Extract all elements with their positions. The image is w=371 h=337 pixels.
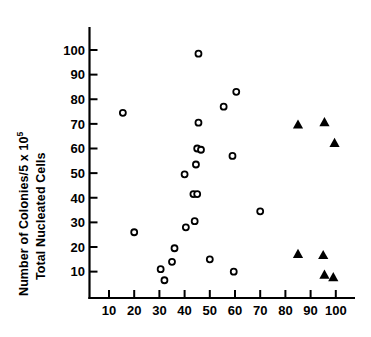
- x-tick-label-100: 100: [325, 303, 347, 318]
- x-axis-ticks: [109, 290, 336, 298]
- y-tick-label-70: 70: [71, 117, 85, 132]
- data-point-filled-triangle: [319, 270, 329, 279]
- y-tick-label-40: 40: [71, 191, 85, 206]
- data-point-open-circle: [193, 162, 199, 168]
- axis-lines: [88, 27, 355, 299]
- y-tick-label-80: 80: [71, 92, 85, 107]
- y-tick-label-60: 60: [71, 141, 85, 156]
- data-point-open-circle: [192, 218, 198, 224]
- y-tick-label-20: 20: [71, 240, 85, 255]
- data-point-open-circle: [169, 259, 175, 265]
- data-point-open-circle: [231, 269, 237, 275]
- data-point-open-circle: [131, 229, 137, 235]
- data-point-open-circle: [207, 256, 213, 262]
- filled-triangle-markers: [293, 117, 340, 281]
- data-point-open-circle: [172, 245, 178, 251]
- data-point-filled-triangle: [318, 250, 328, 259]
- y-tick-label-100: 100: [63, 43, 85, 58]
- x-tick-label-60: 60: [228, 303, 242, 318]
- data-point-filled-triangle: [293, 249, 303, 258]
- data-point-open-circle: [233, 89, 239, 95]
- data-point-filled-triangle: [319, 117, 329, 126]
- data-point-open-circle: [161, 277, 167, 283]
- scatter-plot-figure: Number of Colonies/5 x 105 Total Nucleat…: [0, 0, 371, 337]
- x-tick-label-90: 90: [303, 303, 317, 318]
- x-tick-label-40: 40: [177, 303, 191, 318]
- x-tick-label-10: 10: [102, 303, 116, 318]
- x-tick-label-50: 50: [203, 303, 217, 318]
- y-axis-tick-labels: 102030405060708090100: [63, 43, 85, 280]
- data-point-filled-triangle: [328, 272, 338, 281]
- plot-area: 102030405060708090100 102030405060708090…: [0, 0, 371, 337]
- data-point-open-circle: [194, 191, 200, 197]
- data-point-open-circle: [229, 153, 235, 159]
- y-tick-label-30: 30: [71, 215, 85, 230]
- y-axis-ticks: [90, 50, 98, 272]
- data-point-open-circle: [183, 224, 189, 230]
- x-tick-label-30: 30: [152, 303, 166, 318]
- data-point-open-circle: [221, 104, 227, 110]
- data-point-open-circle: [195, 120, 201, 126]
- x-tick-label-80: 80: [278, 303, 292, 318]
- x-tick-label-70: 70: [253, 303, 267, 318]
- data-point-open-circle: [195, 51, 201, 57]
- data-point-open-circle: [120, 110, 126, 116]
- x-tick-label-20: 20: [127, 303, 141, 318]
- data-point-open-circle: [158, 266, 164, 272]
- y-tick-label-10: 10: [71, 264, 85, 279]
- y-tick-label-90: 90: [71, 67, 85, 82]
- data-point-filled-triangle: [293, 119, 303, 128]
- data-point-filled-triangle: [329, 138, 339, 147]
- data-point-open-circle: [182, 171, 188, 177]
- data-point-open-circle: [257, 208, 263, 214]
- data-point-open-circle: [198, 147, 204, 153]
- y-tick-label-50: 50: [71, 166, 85, 181]
- open-circle-markers: [120, 51, 263, 284]
- x-axis-tick-labels: 102030405060708090100: [102, 303, 347, 318]
